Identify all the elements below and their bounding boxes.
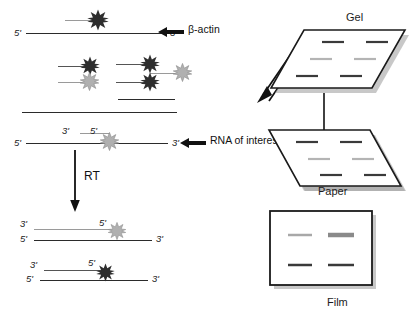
product-dark-top-3prime-label: 3' [30,260,37,270]
product-dark-top-5prime-label: 5' [88,258,95,268]
gel-plate [268,26,410,104]
rna-strand-5prime-label: 5' [14,138,21,148]
rna-primer-3prime-label: 3' [62,126,69,136]
product-light-top-5prime-label: 5' [99,218,106,228]
rna-strand-main-line [26,143,168,144]
light-star-icon [100,132,119,151]
top-strand-5prime-label: 5' [14,28,21,38]
left-arrow-icon-beta-actin [158,24,184,42]
product-light-bottom-5prime-label: 5' [20,234,27,244]
product-dark-bottom-5prime-label: 5' [26,274,33,284]
rt-label: RT [84,170,100,182]
product-light-top-line [34,229,116,230]
down-arrow-icon-rt [68,150,82,216]
product-light-bottom-3prime-label: 3' [156,234,163,244]
dark-star-icon [140,54,160,74]
diagram-canvas: 5' 3' β-actin [0,0,414,320]
gel-caption: Gel [346,12,363,23]
product-light-top-3prime-label: 3' [20,219,27,229]
light-star-icon [173,63,192,82]
left-arrow-icon-rna [180,135,206,153]
top-strand-main-line [26,33,166,34]
beta-actin-label: β-actin [188,24,220,35]
light-star-icon [80,72,99,91]
paper-caption: Paper [318,186,347,197]
film-caption: Film [327,297,348,308]
film-plate [266,208,384,294]
dark-star-icon [87,9,109,31]
light-star-icon [108,222,126,240]
product-dark-bottom-3prime-label: 3' [152,274,159,284]
product-light-bottom-line [34,240,152,241]
rna-primer-5prime-label: 5' [90,126,97,136]
rna-strand-3prime-label: 3' [172,138,179,148]
plain-line-long [22,112,177,113]
product-dark-bottom-line [40,280,148,281]
dark-star-icon [140,72,160,92]
plain-line-short [118,99,175,100]
